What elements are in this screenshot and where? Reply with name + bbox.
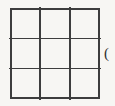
grid-cell-r2c2[interactable]: [40, 38, 70, 68]
three-by-three-grid: [10, 8, 100, 99]
grid-cell-r3c2[interactable]: [40, 69, 70, 99]
grid-cell-r2c3[interactable]: [70, 38, 100, 68]
figure-canvas: (: [0, 0, 115, 106]
grid-cell-r3c3[interactable]: [70, 69, 100, 99]
grid-svg: [10, 8, 100, 99]
grid-cell-r2c1[interactable]: [10, 38, 40, 68]
grid-cell-r3c1[interactable]: [10, 69, 40, 99]
grid-cell-r1c1[interactable]: [10, 8, 40, 38]
grid-cell-r1c2[interactable]: [40, 8, 70, 38]
grid-cell-r1c3[interactable]: [70, 8, 100, 38]
side-annotation-text: (: [104, 43, 115, 63]
